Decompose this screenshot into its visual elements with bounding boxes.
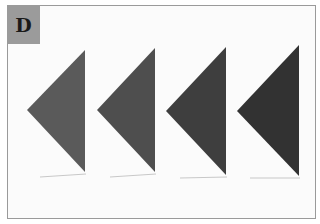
left-triangle-3 <box>166 47 226 175</box>
shadow-lines <box>40 174 300 178</box>
left-triangle-4 <box>237 45 299 176</box>
panel-label-box: D <box>7 5 40 44</box>
left-triangle-1 <box>27 50 85 172</box>
triangles-figure <box>0 0 320 224</box>
panel-label: D <box>15 14 31 36</box>
left-triangle-2 <box>97 48 155 172</box>
